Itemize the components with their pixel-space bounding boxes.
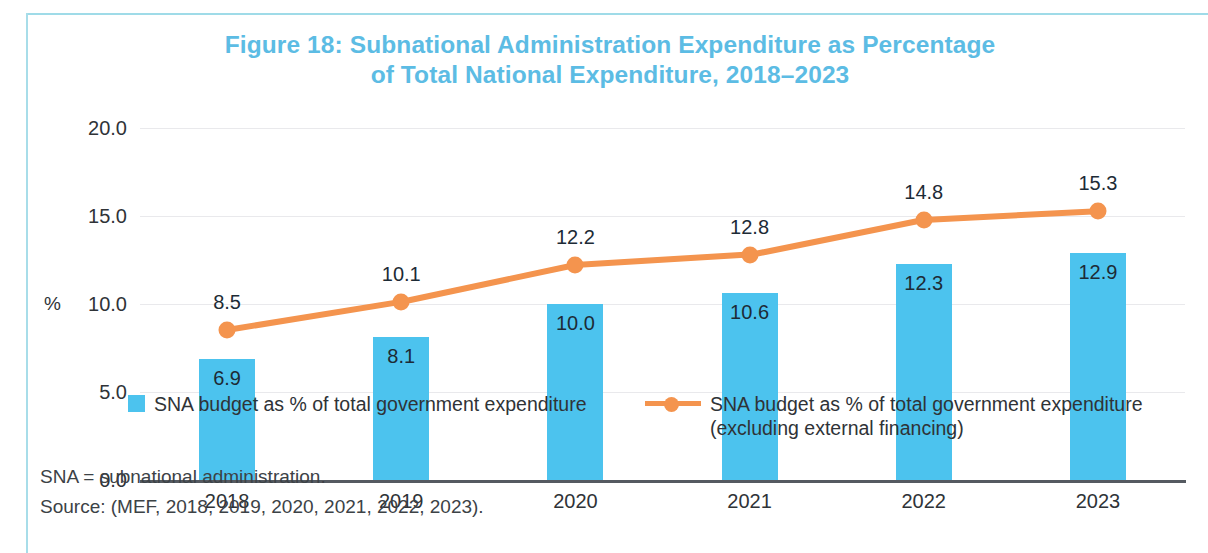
legend-item-line-series: SNA budget as % of total government expe… <box>645 392 1143 440</box>
line-value-label: 15.3 <box>1078 172 1117 195</box>
gridline <box>140 128 1185 129</box>
line-segment <box>575 252 750 269</box>
line-value-label: 8.5 <box>213 291 241 314</box>
legend-line-label-line-1: SNA budget as % of total government expe… <box>710 393 1143 415</box>
line-segment <box>749 217 924 258</box>
line-marker-2019 <box>393 294 410 311</box>
bar-value-label: 12.9 <box>1070 261 1126 284</box>
legend-line-swatch-icon <box>645 395 701 412</box>
legend-bar-label: SNA budget as % of total government expe… <box>154 392 587 416</box>
y-axis-tick-label: 20.0 <box>37 117 127 140</box>
line-value-label: 10.1 <box>382 263 421 286</box>
note-abbreviation: SNA = subnational administration. <box>40 462 484 492</box>
bar-2022: 12.3 <box>896 264 952 480</box>
line-marker-2023 <box>1089 202 1106 219</box>
line-marker-2022 <box>915 211 932 228</box>
x-axis-tick-label-2020: 2020 <box>490 490 660 513</box>
figure-notes: SNA = subnational administration. Source… <box>40 462 484 522</box>
x-axis-tick-label-2023: 2023 <box>1013 490 1183 513</box>
line-segment <box>401 262 576 305</box>
note-source: Source: (MEF, 2018, 2019, 2020, 2021, 20… <box>40 492 484 522</box>
line-marker-2020 <box>567 257 584 274</box>
line-segment <box>924 208 1098 223</box>
bar-2023: 12.9 <box>1070 253 1126 480</box>
figure-container: Figure 18: Subnational Administration Ex… <box>0 0 1208 553</box>
line-value-label: 12.2 <box>556 226 595 249</box>
line-value-label: 12.8 <box>730 216 769 239</box>
legend-line-label-line-2: (excluding external financing) <box>710 416 1143 440</box>
legend-bar-swatch-icon <box>128 395 145 412</box>
plot-area: 0.05.010.015.020.0%6.98.110.010.612.312.… <box>140 128 1185 352</box>
frame-top-border <box>26 13 1208 15</box>
legend-line-label: SNA budget as % of total government expe… <box>710 392 1143 440</box>
legend-item-bar-series: SNA budget as % of total government expe… <box>128 392 587 416</box>
line-value-label: 14.8 <box>904 181 943 204</box>
bar-value-label: 10.0 <box>547 312 603 335</box>
bar-value-label: 8.1 <box>373 345 429 368</box>
line-marker-2018 <box>219 322 236 339</box>
y-axis-tick-label: 15.0 <box>37 205 127 228</box>
figure-title: Figure 18: Subnational Administration Ex… <box>120 30 1100 90</box>
bar-value-label: 12.3 <box>896 272 952 295</box>
x-axis-tick-label-2021: 2021 <box>665 490 835 513</box>
bar-value-label: 6.9 <box>199 367 255 390</box>
line-marker-2021 <box>741 246 758 263</box>
figure-title-line-1: Figure 18: Subnational Administration Ex… <box>225 31 996 58</box>
bar-value-label: 10.6 <box>722 301 778 324</box>
gridline <box>140 304 1185 305</box>
figure-title-line-2: of Total National Expenditure, 2018–2023 <box>120 60 1100 90</box>
y-axis-tick-label: 5.0 <box>37 381 127 404</box>
bar-2021: 10.6 <box>722 293 778 480</box>
x-axis-tick-label-2022: 2022 <box>839 490 1009 513</box>
frame-left-border <box>26 13 28 553</box>
y-axis-title: % <box>44 293 61 315</box>
